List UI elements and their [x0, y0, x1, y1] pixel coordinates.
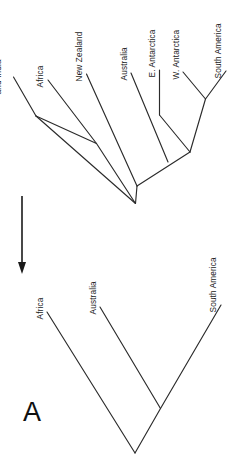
branch-australia [131, 73, 168, 162]
branch-new-zealand [87, 74, 138, 186]
internode-e-antarctica [160, 115, 191, 152]
internode-nz-to-root [136, 186, 138, 204]
tip-label-australia: Australia [119, 47, 128, 80]
internode-laurasia-to-africa [36, 116, 97, 144]
branch-w-antarctica [183, 72, 206, 99]
cladogram-figure: Laurasiaand India Africa New Zealand Aus… [0, 0, 230, 465]
branch-africa-lower [47, 312, 135, 453]
tip-label-australia-lower: Australia [88, 281, 97, 314]
tip-label-e-antarctica: E. Antarctica [148, 29, 157, 77]
time-arrow-group [18, 196, 26, 274]
upper-cladogram-branches [14, 70, 227, 204]
tip-label-laurasia-india: Laurasiaand India [0, 59, 3, 94]
internode-africa-to-root [97, 144, 136, 204]
tip-label-w-antarctica: W. Antarctica [171, 30, 180, 80]
branch-laurasia-india [14, 77, 37, 116]
internode-ausa-to-root-lower [135, 409, 161, 454]
panel-letter: A [23, 397, 41, 428]
cladogram-drawing [0, 0, 230, 465]
branch-africa [48, 80, 97, 144]
tip-label-africa-lower: Africa [35, 298, 44, 320]
time-arrow-head-icon [18, 262, 26, 274]
tip-label-south-america-lower: South America [209, 257, 218, 312]
branch-australia-lower [100, 307, 161, 409]
tip-label-new-zealand: New Zealand [75, 32, 84, 82]
lower-cladogram-branches [47, 305, 221, 453]
tip-label-laurasia-india-line2: and India [0, 59, 3, 94]
branch-south-america-lower [161, 305, 222, 409]
internode-ws-to-ew [190, 99, 206, 152]
tip-label-south-america: South America [214, 23, 223, 78]
internode-ew-to-root [137, 152, 190, 186]
tip-label-africa: Africa [36, 66, 45, 88]
